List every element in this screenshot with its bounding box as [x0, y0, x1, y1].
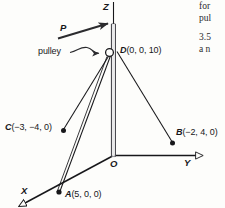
- point-A-dot: [56, 189, 61, 194]
- figure-page: Z Y X O D(0, 0, 10) C(−3, −4, 0) B(−2, 4…: [0, 0, 225, 208]
- point-label-D: D(0, 0, 10): [120, 46, 161, 55]
- point-label-C: C(−3, −4, 0): [5, 123, 52, 132]
- bleed-line-4: a n: [199, 45, 210, 55]
- axis-label-z: Z: [103, 2, 109, 12]
- pulley-icon: [106, 49, 114, 57]
- point-label-B: B(−2, 4, 0): [176, 128, 218, 137]
- bleed-line-3: 3.5: [199, 33, 211, 43]
- pulley-leader-line: [70, 47, 99, 53]
- adjacent-column-text: for pul 3.5 a n: [195, 0, 225, 60]
- vertical-pole: [112, 24, 116, 157]
- axis-label-y: Y: [184, 158, 190, 168]
- axis-label-x: X: [21, 186, 27, 196]
- point-label-A: A(5, 0, 0): [65, 190, 102, 199]
- bleed-line-1: for: [199, 2, 210, 12]
- point-B-dot: [170, 141, 175, 146]
- point-C-dot: [61, 128, 66, 133]
- force-label-P: P: [60, 23, 66, 33]
- diagram-canvas: [0, 0, 225, 208]
- origin-label: O: [110, 159, 117, 169]
- bleed-line-2: pul: [199, 14, 211, 24]
- pulley-label: pulley: [38, 47, 61, 56]
